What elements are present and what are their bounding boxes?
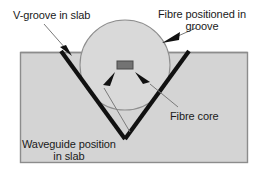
label-waveguide-line1: Waveguide position: [22, 138, 116, 150]
fibre-core-rect: [117, 61, 133, 69]
label-fibre-positioned-line1: Fibre positioned in: [158, 8, 246, 20]
label-waveguide-line2: in slab: [22, 150, 116, 162]
arrowhead-fibre-positioned: [162, 32, 180, 43]
label-fibre-positioned-in-groove: Fibre positioned ingroove: [158, 8, 246, 32]
figure-root: V-groove in slab Fibre positioned ingroo…: [0, 0, 276, 176]
label-fibre-positioned-line2: groove: [158, 20, 246, 32]
label-v-groove-in-slab: V-groove in slab: [13, 9, 90, 21]
leader-line-v-groove: [44, 24, 66, 49]
label-waveguide-position-in-slab: Waveguide positionin slab: [22, 138, 116, 162]
label-fibre-core: Fibre core: [170, 110, 219, 122]
